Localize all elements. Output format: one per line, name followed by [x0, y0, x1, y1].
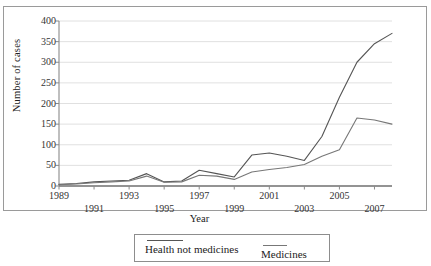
- y-tick-label: 50: [22, 160, 56, 170]
- legend-swatch-medicines: [263, 245, 287, 246]
- x-tick-label: 2001: [249, 190, 289, 201]
- y-axis-title: Number of cases: [11, 16, 22, 136]
- y-tick-label: 300: [22, 57, 56, 67]
- y-tick-label: 200: [22, 99, 56, 109]
- x-tick-label: 1997: [179, 190, 219, 201]
- legend-label-medicines: Medicines: [261, 248, 307, 260]
- legend-swatch-health-not-medicines: [147, 240, 183, 241]
- y-tick-label: 100: [22, 140, 56, 150]
- x-tick-label: 1989: [39, 190, 79, 201]
- x-axis-ticks: 1989199119931995199719992001200320052007: [0, 0, 431, 40]
- data-series: [59, 33, 392, 184]
- y-tick-label: 250: [22, 78, 56, 88]
- x-tick-label: 2005: [319, 190, 359, 201]
- legend-label-health-not-medicines: Health not medicines: [145, 243, 238, 255]
- chart-figure: 050100150200250300350400 198919911993199…: [0, 0, 431, 266]
- y-tick-label: 150: [22, 119, 56, 129]
- x-axis-title: Year: [0, 213, 415, 224]
- chart-legend: Health not medicines Medicines: [134, 234, 330, 262]
- x-tick-label: 1993: [109, 190, 149, 201]
